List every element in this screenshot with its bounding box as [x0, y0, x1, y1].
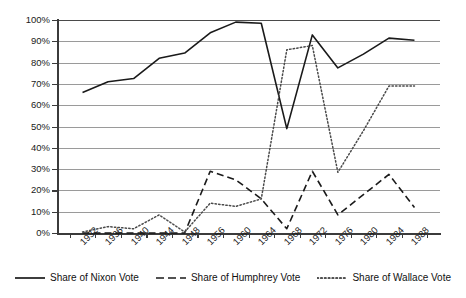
series-line-share-of-wallace-vote	[83, 46, 415, 232]
y-axis-tick-label: 50%	[8, 122, 50, 132]
y-axis-tick-label: 0%	[8, 228, 50, 238]
y-axis-tick-label: 70%	[8, 79, 50, 89]
y-axis-tick-label: 20%	[8, 185, 50, 195]
legend-entry-share-of-nixon-vote[interactable]: Share of Nixon Vote	[15, 272, 139, 283]
vote-share-line-chart: 0%10%20%30%40%50%60%70%80%90%100% 193219…	[0, 0, 466, 298]
y-axis-tick-label: 10%	[8, 207, 50, 217]
legend-label: Share of Wallace Vote	[352, 272, 451, 283]
data-series-group	[57, 20, 440, 233]
legend-entry-share-of-humphrey-vote[interactable]: Share of Humphrey Vote	[156, 272, 301, 283]
legend-swatch-dotted-icon	[317, 274, 347, 282]
legend-entry-share-of-wallace-vote[interactable]: Share of Wallace Vote	[317, 272, 451, 283]
legend-swatch-solid-icon	[15, 274, 45, 282]
y-axis-tick-label: 100%	[8, 15, 50, 25]
y-axis-tick-label: 60%	[8, 100, 50, 110]
y-axis-tick-label: 80%	[8, 58, 50, 68]
chart-legend: Share of Nixon VoteShare of Humphrey Vot…	[0, 272, 466, 283]
y-axis-tick-label: 30%	[8, 164, 50, 174]
y-axis-tick-label: 90%	[8, 36, 50, 46]
x-tick-mark	[70, 233, 71, 238]
series-line-share-of-nixon-vote	[83, 22, 415, 129]
legend-label: Share of Nixon Vote	[50, 272, 139, 283]
y-axis-tick-label: 40%	[8, 143, 50, 153]
legend-label: Share of Humphrey Vote	[191, 272, 301, 283]
legend-swatch-dashed-icon	[156, 274, 186, 282]
y-tick-mark	[52, 233, 58, 234]
